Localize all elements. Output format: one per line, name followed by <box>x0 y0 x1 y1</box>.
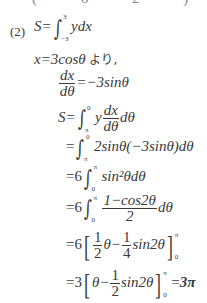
derivative-line: dxdθ=−3sinθ <box>58 68 129 99</box>
step-half-angle: =6∫π01−cos2θ2dθ <box>66 193 173 224</box>
step-substituted: =∫0π2sinθ(−3sinθ)dθ <box>66 134 194 162</box>
step-sin-squared: =6∫π0sin²θdθ <box>66 164 146 192</box>
parametric-integral: S=∫0πydxdθdθ <box>58 103 135 134</box>
area-integral-definition: S=∫3−3ydx <box>34 14 92 42</box>
step-antiderivative: =6[12θ−14sin2θ]π0 <box>66 230 183 261</box>
answer: 3π <box>180 274 196 290</box>
previous-line-fragment: ( 6 2 ) 3 <box>32 0 207 7</box>
substitution-line: x=3cosθ より, <box>34 50 117 68</box>
problem-label: (2) <box>10 24 25 40</box>
final-result: =3[θ−12sin2θ]π0=3π <box>66 268 196 299</box>
